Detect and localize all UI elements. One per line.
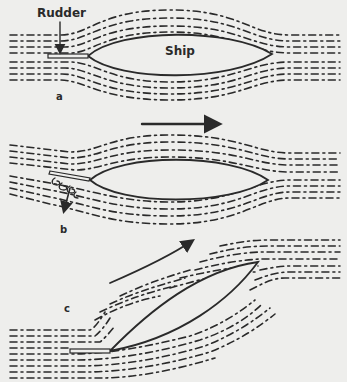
ship-hull-b [90,160,268,200]
rudder-a [48,54,88,58]
eddies [52,178,78,198]
ship-rudder-diagram: Rudder Ship a b c [0,0,347,382]
rudder-c [70,349,110,353]
panel-b [10,135,340,224]
panel-a-label: a [56,91,63,102]
rudder-b [49,171,90,181]
rudder-label: Rudder [37,6,86,20]
panel-c-label: c [64,303,70,314]
ship-label: Ship [165,44,195,58]
panel-b-label: b [60,224,67,235]
panel-c [10,240,340,378]
turning-arrow [110,241,192,283]
